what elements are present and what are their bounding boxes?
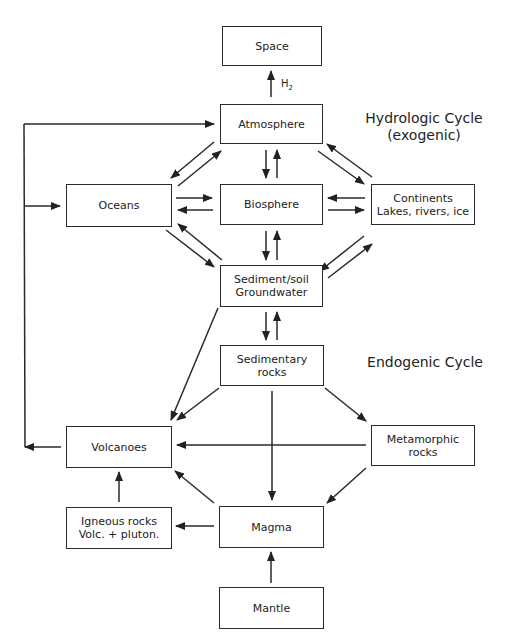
node-oceans: Oceans	[66, 184, 172, 227]
node-biosphere: Biosphere	[220, 184, 323, 225]
node-metamorphic-rocks: Metamorphic rocks	[371, 425, 475, 466]
node-continents: Continents Lakes, rivers, ice	[371, 184, 475, 225]
node-label: Metamorphic	[387, 433, 459, 446]
node-mantle: Mantle	[219, 587, 324, 629]
node-volcanoes: Volcanoes	[66, 426, 172, 468]
node-label: Mantle	[253, 602, 290, 615]
node-label: Lakes, rivers, ice	[377, 205, 469, 218]
node-label: Atmosphere	[238, 118, 305, 131]
node-sedimentary-rocks: Sedimentary rocks	[220, 345, 324, 386]
node-label: Biosphere	[244, 198, 299, 211]
node-label: Magma	[251, 521, 292, 534]
endogenic-cycle-title: Endogenic Cycle	[360, 354, 490, 371]
node-igneous-rocks: Igneous rocks Volc. + pluton.	[66, 507, 172, 549]
node-space: Space	[222, 26, 322, 66]
node-label: rocks	[408, 446, 437, 459]
node-label: Continents	[393, 192, 453, 205]
node-atmosphere: Atmosphere	[220, 104, 323, 144]
h2-label: H2	[281, 78, 293, 92]
node-magma: Magma	[219, 506, 324, 548]
node-label: Sediment/soil	[234, 273, 309, 286]
node-label: Volc. + pluton.	[79, 528, 160, 541]
node-label: Space	[255, 40, 289, 53]
node-sediment-soil: Sediment/soil Groundwater	[220, 265, 323, 307]
node-label: Oceans	[99, 199, 140, 212]
hydrologic-cycle-title: Hydrologic Cycle (exogenic)	[354, 110, 494, 144]
node-label: Groundwater	[236, 286, 308, 299]
node-label: Sedimentary	[237, 353, 307, 366]
node-label: Igneous rocks	[81, 515, 157, 528]
node-label: Volcanoes	[91, 441, 146, 454]
node-label: rocks	[257, 366, 286, 379]
